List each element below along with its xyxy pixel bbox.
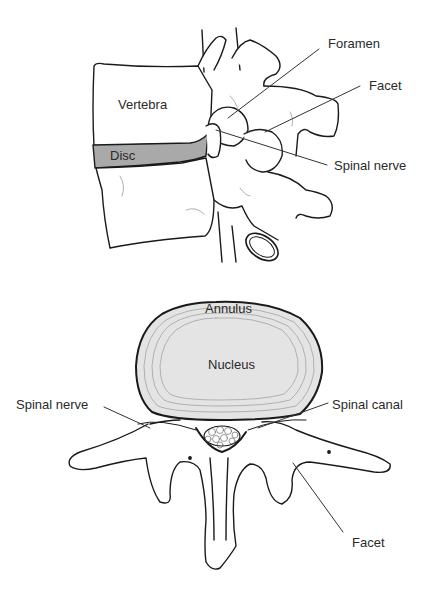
leader-top-facet — [293, 463, 343, 532]
label-spinal-nerve-side: Spinal nerve — [334, 159, 406, 172]
side-view-spine-illustration — [0, 0, 431, 592]
top-view — [69, 302, 390, 569]
label-facet-side: Facet — [369, 79, 402, 92]
label-disc: Disc — [110, 149, 135, 162]
label-spinal-nerve-top: Spinal nerve — [16, 398, 88, 411]
label-vertebra: Vertebra — [118, 98, 167, 111]
lower-vertebra-body — [96, 158, 214, 248]
label-foramen: Foramen — [328, 37, 380, 50]
label-facet-top: Facet — [352, 536, 385, 549]
label-nucleus: Nucleus — [208, 358, 255, 371]
leader-top-spinal-nerve — [104, 407, 150, 428]
label-annulus: Annulus — [205, 302, 252, 315]
label-spinal-canal: Spinal canal — [332, 398, 403, 411]
lower-spinal-canal-oval — [241, 228, 283, 267]
facet-joint — [244, 129, 282, 172]
